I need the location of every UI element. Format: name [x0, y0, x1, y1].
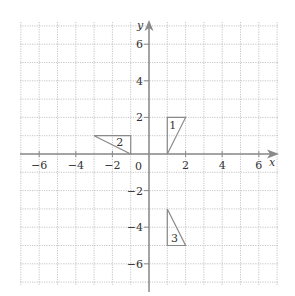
y-axis-label: y — [136, 19, 144, 32]
x-axis-label: x — [269, 156, 276, 169]
x-tick-label: 6 — [255, 159, 262, 172]
x-tick-label: −4 — [68, 159, 84, 172]
triangle-label-1: 1 — [169, 119, 176, 132]
x-tick-label: −6 — [31, 159, 47, 172]
triangle-label-3: 3 — [171, 232, 178, 245]
y-tick-label: 2 — [136, 111, 143, 124]
y-tick-label: 6 — [136, 38, 143, 51]
y-tick-label: −2 — [127, 185, 143, 198]
origin-label: 0 — [135, 160, 142, 173]
x-tick-label: 2 — [182, 159, 189, 172]
triangle-label-2: 2 — [116, 136, 123, 149]
x-tick-label: −2 — [104, 159, 120, 172]
y-tick-label: −4 — [127, 221, 143, 234]
y-tick-label: −6 — [127, 258, 143, 271]
coordinate-grid-diagram: x y 0 −6−4−2246642−2−4−6 123 — [0, 0, 295, 296]
x-tick-label: 4 — [219, 159, 226, 172]
y-tick-label: 4 — [136, 75, 143, 88]
